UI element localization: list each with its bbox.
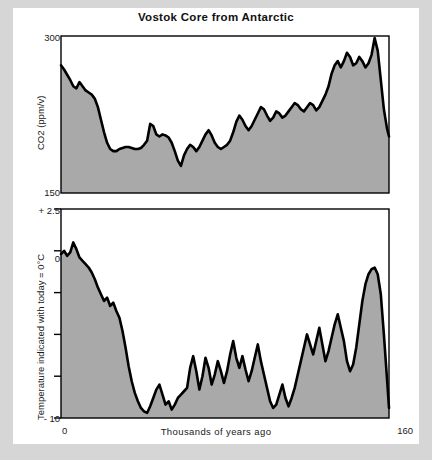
co2-y-axis-label: CO2 (ppm/v): [36, 96, 46, 150]
temperature-ytick-0: 0: [26, 254, 60, 264]
temperature-y-axis-label: Temperature indicated with today = 0°C: [36, 254, 46, 420]
temperature-ytick-minus-10: - 10: [26, 414, 60, 424]
temperature-ytick-plus-2-5: + 2.5: [26, 206, 60, 216]
screenshot-root: Vostok Core from Antarctic CO2 (ppm/v) 3…: [0, 0, 432, 460]
page-title: Vostok Core from Antarctic: [0, 11, 432, 23]
co2-ytick-150: 150: [34, 188, 60, 198]
co2-ytick-300: 300: [34, 33, 60, 43]
co2-plot-group: [61, 36, 389, 193]
temperature-plot-group: [54, 209, 389, 418]
plot-surface: [0, 0, 432, 460]
temperature-tick-marks: [54, 209, 61, 418]
vostok-core-figure: Vostok Core from Antarctic CO2 (ppm/v) 3…: [0, 0, 432, 460]
x-axis-label: Thousands of years ago: [0, 426, 432, 437]
